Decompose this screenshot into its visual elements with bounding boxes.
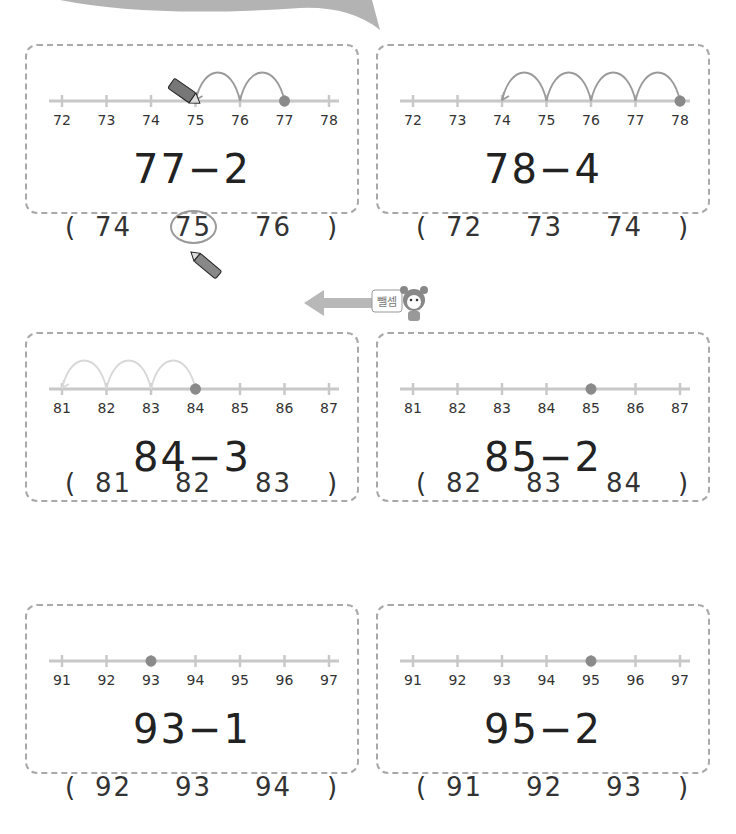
number-line: 91929394959697: [378, 606, 712, 706]
tick-label: 78: [671, 112, 689, 128]
tick-label: 84: [187, 400, 205, 416]
speech-label: 뺄셈: [377, 296, 397, 309]
number-line: 72737475767778: [27, 46, 361, 146]
choice-option[interactable]: 81: [95, 468, 132, 498]
tick-label: 78: [320, 112, 338, 128]
left-arrow-icon: [304, 290, 374, 316]
tick-label: 93: [493, 672, 511, 688]
problem-card: 7273747576777877−2: [25, 44, 359, 214]
tick-label: 84: [538, 400, 556, 416]
answer-choices: (727374): [376, 212, 710, 252]
answer-choices: (828384): [376, 468, 710, 508]
subtraction-hint: 뺄셈: [300, 278, 440, 328]
tick-label: 81: [404, 400, 422, 416]
choice-option[interactable]: 76: [255, 212, 292, 242]
hop-arc: [547, 73, 592, 102]
tick-label: 94: [187, 672, 205, 688]
choice-option[interactable]: 91: [446, 772, 483, 802]
tick-label: 95: [231, 672, 249, 688]
problem-card: 9192939495969795−2: [376, 604, 710, 774]
tick-label: 73: [98, 112, 116, 128]
tick-label: 74: [142, 112, 160, 128]
choice-option[interactable]: 84: [606, 468, 643, 498]
choice-option[interactable]: 82: [446, 468, 483, 498]
expression: 77−2: [27, 146, 357, 192]
choice-option[interactable]: 72: [446, 212, 483, 242]
start-point-dot: [586, 656, 597, 667]
close-paren: ): [327, 212, 339, 242]
close-paren: ): [327, 772, 339, 802]
hop-arc: [591, 73, 636, 102]
choice-option[interactable]: 74: [95, 212, 132, 242]
hop-arc: [107, 361, 152, 390]
hop-arc: [636, 73, 681, 102]
choice-option[interactable]: 73: [526, 212, 563, 242]
tick-label: 75: [187, 112, 205, 128]
tick-label: 87: [320, 400, 338, 416]
tick-label: 82: [98, 400, 116, 416]
choice-option[interactable]: 93: [606, 772, 643, 802]
choice-option[interactable]: 92: [526, 772, 563, 802]
choice-option[interactable]: 94: [255, 772, 292, 802]
choice-option-selected[interactable]: 75: [170, 210, 217, 244]
hop-arc: [240, 73, 285, 102]
number-line: 91929394959697: [27, 606, 361, 706]
close-paren: ): [327, 468, 339, 498]
answer-choices: (919293): [376, 772, 710, 812]
expression: 93−1: [27, 706, 357, 752]
open-paren: (: [416, 772, 428, 802]
choice-option[interactable]: 92: [95, 772, 132, 802]
tick-label: 77: [276, 112, 294, 128]
open-paren: (: [65, 772, 77, 802]
tick-label: 94: [538, 672, 556, 688]
number-line: 81828384858687: [27, 334, 361, 434]
answer-choices: (929394): [25, 772, 359, 812]
tick-label: 83: [493, 400, 511, 416]
open-paren: (: [416, 468, 428, 498]
choice-option[interactable]: 83: [526, 468, 563, 498]
tick-label: 74: [493, 112, 511, 128]
tick-label: 96: [627, 672, 645, 688]
tick-label: 95: [582, 672, 600, 688]
close-paren: ): [678, 772, 690, 802]
tick-label: 97: [671, 672, 689, 688]
answer-choices: (818283): [25, 468, 359, 508]
tick-label: 83: [142, 400, 160, 416]
choice-option[interactable]: 83: [255, 468, 292, 498]
tick-label: 77: [627, 112, 645, 128]
start-point-dot: [675, 96, 686, 107]
tick-label: 92: [449, 672, 467, 688]
choice-option[interactable]: 82: [175, 468, 212, 498]
tick-label: 91: [404, 672, 422, 688]
tick-label: 96: [276, 672, 294, 688]
tick-label: 76: [231, 112, 249, 128]
tick-label: 97: [320, 672, 338, 688]
choice-option[interactable]: 74: [606, 212, 643, 242]
tick-label: 76: [582, 112, 600, 128]
tick-label: 91: [53, 672, 71, 688]
tick-label: 86: [627, 400, 645, 416]
hop-arrowhead: [502, 92, 509, 100]
hop-arc: [151, 361, 196, 390]
tick-label: 72: [53, 112, 71, 128]
expression: 78−4: [378, 146, 708, 192]
number-line: 81828384858687: [378, 334, 712, 434]
tick-label: 86: [276, 400, 294, 416]
choice-option[interactable]: 93: [175, 772, 212, 802]
start-point-dot: [586, 384, 597, 395]
tick-label: 72: [404, 112, 422, 128]
answer-choices: (747576): [25, 212, 359, 252]
number-line: 72737475767778: [378, 46, 712, 146]
tick-label: 93: [142, 672, 160, 688]
expression: 95−2: [378, 706, 708, 752]
tick-label: 82: [449, 400, 467, 416]
tick-label: 87: [671, 400, 689, 416]
close-paren: ): [678, 212, 690, 242]
open-paren: (: [65, 468, 77, 498]
open-paren: (: [416, 212, 428, 242]
header-banner-swoosh: [0, 0, 400, 40]
bear-mascot-icon: [400, 286, 428, 321]
tick-label: 81: [53, 400, 71, 416]
hop-arrowhead: [62, 380, 69, 388]
start-point-dot: [279, 96, 290, 107]
